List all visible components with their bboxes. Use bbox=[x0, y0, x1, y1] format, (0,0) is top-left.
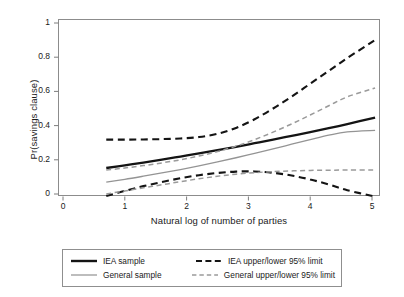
chart-legend: IEA sampleIEA upper/lower 95% limitGener… bbox=[62, 249, 342, 287]
x-tick-label: 3 bbox=[236, 202, 260, 211]
x-tick-label: 2 bbox=[175, 202, 199, 211]
legend-label: IEA sample bbox=[103, 257, 145, 266]
legend-label: IEA upper/lower 95% limit bbox=[228, 257, 323, 266]
legend-label: General sample bbox=[103, 271, 162, 280]
legend-line-swatch bbox=[192, 271, 218, 279]
y-tick-label: 0 bbox=[22, 189, 50, 198]
legend-entry[interactable]: General upper/lower 95% limit bbox=[192, 271, 335, 280]
curve-general-sample bbox=[106, 130, 375, 182]
curve-general-upper-lower-95-limit-lower bbox=[106, 170, 375, 194]
data-curves bbox=[106, 40, 375, 196]
legend-line-swatch bbox=[71, 271, 97, 279]
legend-label: General upper/lower 95% limit bbox=[224, 271, 335, 280]
y-tick-label: 0.6 bbox=[22, 86, 50, 95]
chart-figure: Pr(savings clause) Natural log of number… bbox=[0, 0, 404, 297]
y-tick-label: 0.8 bbox=[22, 52, 50, 61]
x-tick-label: 1 bbox=[113, 202, 137, 211]
legend-row: IEA sampleIEA upper/lower 95% limit bbox=[71, 254, 335, 268]
x-tick-label: 0 bbox=[51, 202, 75, 211]
legend-row: General sampleGeneral upper/lower 95% li… bbox=[71, 268, 335, 282]
y-tick-label: 1 bbox=[22, 18, 50, 27]
legend-entry[interactable]: General sample bbox=[71, 271, 192, 280]
x-tick-label: 5 bbox=[360, 202, 384, 211]
curve-iea-sample bbox=[106, 118, 375, 168]
curve-general-upper-lower-95-limit-upper bbox=[106, 88, 375, 170]
x-axis-label: Natural log of number of parties bbox=[58, 215, 380, 226]
legend-line-swatch bbox=[196, 257, 222, 265]
legend-line-swatch bbox=[71, 257, 97, 265]
legend-entry[interactable]: IEA upper/lower 95% limit bbox=[196, 257, 323, 266]
y-tick-label: 0.4 bbox=[22, 121, 50, 130]
x-tick-label: 4 bbox=[298, 202, 322, 211]
curve-iea-upper-lower-95-limit-upper bbox=[106, 40, 375, 140]
legend-entry[interactable]: IEA sample bbox=[71, 257, 196, 266]
y-axis-label: Pr(savings clause) bbox=[28, 55, 39, 185]
y-tick-label: 0.2 bbox=[22, 155, 50, 164]
